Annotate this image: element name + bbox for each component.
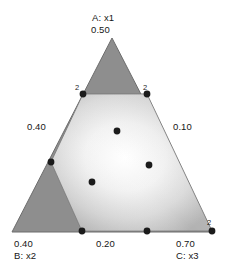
constraint-region-sweep: [51, 94, 212, 231]
axis-tick-a-value: 0.50: [91, 24, 110, 35]
replicate-count-tag: 2: [75, 84, 79, 92]
axis-tick-c-value: 0.70: [176, 238, 195, 249]
axis-tick-right-edge: 0.10: [173, 121, 192, 132]
design-point-interior: [89, 179, 96, 186]
design-point-interior: [146, 162, 153, 169]
axis-label-a-name: A: x1: [92, 12, 114, 23]
axis-tick-b-value: 0.40: [14, 238, 33, 249]
ternary-plot: A: x1 0.50 0.40 0.10 0.20 0.40 B: x2 0.7…: [0, 0, 226, 269]
design-point-vertex: [209, 228, 216, 235]
axis-label-b-name: B: x2: [14, 250, 36, 261]
design-point-vertex: [79, 228, 86, 235]
axis-tick-left-edge: 0.40: [27, 121, 46, 132]
axis-tick-bottom-edge: 0.20: [96, 238, 115, 249]
replicate-count-tag: 2: [143, 84, 147, 92]
replicate-count-tag: 2: [207, 219, 211, 227]
ternary-plot-canvas: [0, 0, 226, 269]
design-point-interior: [114, 128, 121, 135]
design-point-vertex: [144, 228, 151, 235]
design-point-vertex: [48, 159, 55, 166]
design-point-vertex: [80, 91, 87, 98]
axis-label-c-name: C: x3: [176, 250, 199, 261]
